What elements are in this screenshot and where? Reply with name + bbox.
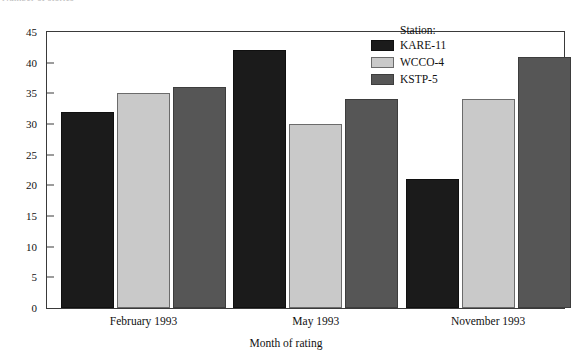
y-axis-tick-label: 5 bbox=[32, 271, 38, 283]
legend-swatch-icon bbox=[371, 40, 394, 51]
x-axis-category-label: May 1993 bbox=[292, 315, 339, 327]
bar bbox=[61, 112, 114, 308]
chart-screenshot: Number of stories 051015202530354045 Feb… bbox=[0, 0, 572, 361]
legend-item-label: WCCO-4 bbox=[400, 56, 444, 68]
legend-item: WCCO-4 bbox=[371, 54, 446, 70]
bar bbox=[518, 57, 571, 308]
x-axis-category-label: February 1993 bbox=[110, 315, 177, 327]
legend-item-label: KARE-11 bbox=[400, 39, 446, 51]
x-axis-title: Month of rating bbox=[0, 337, 572, 349]
y-axis: 051015202530354045 bbox=[0, 0, 46, 361]
bars-layer bbox=[47, 32, 564, 308]
y-axis-tick-label: 30 bbox=[26, 118, 37, 130]
y-axis-tick-label: 40 bbox=[26, 57, 37, 69]
y-axis-tick-label: 15 bbox=[26, 210, 37, 222]
bar bbox=[406, 179, 459, 308]
bar bbox=[173, 87, 226, 308]
bar bbox=[462, 99, 515, 308]
legend: Station: KARE-11WCCO-4KSTP-5 bbox=[366, 21, 452, 92]
y-axis-tick-mark bbox=[47, 62, 54, 63]
y-axis-tick-label: 35 bbox=[26, 87, 37, 99]
y-axis-tick-mark bbox=[47, 154, 54, 155]
legend-swatch-icon bbox=[371, 74, 394, 85]
bar bbox=[345, 99, 398, 308]
y-axis-tick-label: 0 bbox=[32, 302, 38, 314]
legend-item-label: KSTP-5 bbox=[400, 73, 438, 85]
y-axis-tick-mark bbox=[47, 216, 54, 217]
bar bbox=[117, 93, 170, 308]
y-axis-tick-mark bbox=[47, 246, 54, 247]
y-axis-tick-mark bbox=[47, 185, 54, 186]
x-axis-category-label: November 1993 bbox=[451, 315, 525, 327]
bar bbox=[289, 124, 342, 308]
y-axis-tick-label: 25 bbox=[26, 149, 37, 161]
y-axis-tick-mark bbox=[47, 277, 54, 278]
legend-entries: KARE-11WCCO-4KSTP-5 bbox=[371, 37, 446, 87]
y-axis-tick-label: 10 bbox=[26, 241, 37, 253]
legend-swatch-icon bbox=[371, 57, 394, 68]
legend-item: KSTP-5 bbox=[371, 71, 446, 87]
y-axis-tick-mark bbox=[47, 124, 54, 125]
y-axis-tick-mark bbox=[47, 93, 54, 94]
bar bbox=[233, 50, 286, 308]
y-axis-tick-label: 20 bbox=[26, 179, 37, 191]
legend-title: Station: bbox=[400, 24, 446, 36]
y-axis-tick-label: 45 bbox=[26, 26, 37, 38]
legend-item: KARE-11 bbox=[371, 37, 446, 53]
